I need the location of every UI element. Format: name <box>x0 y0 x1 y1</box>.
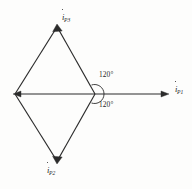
arrowhead-left <box>13 91 21 97</box>
edge-left-to-bottom <box>15 94 57 161</box>
phasor-subscript-ip1: P1 <box>177 89 183 95</box>
angle-label-bottom: 120° <box>99 101 113 108</box>
phasor-diagram-figure: iP3 iP2 iP1 120° 120° <box>0 0 192 189</box>
arrowhead-top-ip3 <box>53 24 63 32</box>
arrowhead-right-ip1 <box>161 91 169 97</box>
edge-top-to-center <box>58 28 96 95</box>
phasor-label-ip2: iP2 <box>47 166 56 175</box>
phasor-label-ip3: iP3 <box>62 13 71 22</box>
phasor-subscript-ip2: P2 <box>49 170 55 176</box>
angle-label-top: 120° <box>99 71 113 78</box>
phasor-label-ip1: iP1 <box>175 85 184 94</box>
phasor-subscript-ip3: P3 <box>64 17 70 23</box>
edge-bottom-to-center <box>58 94 96 161</box>
arrowhead-bottom-ip2 <box>53 156 63 164</box>
phasor-diagram-canvas <box>0 0 192 189</box>
edge-left-to-top <box>15 27 57 94</box>
